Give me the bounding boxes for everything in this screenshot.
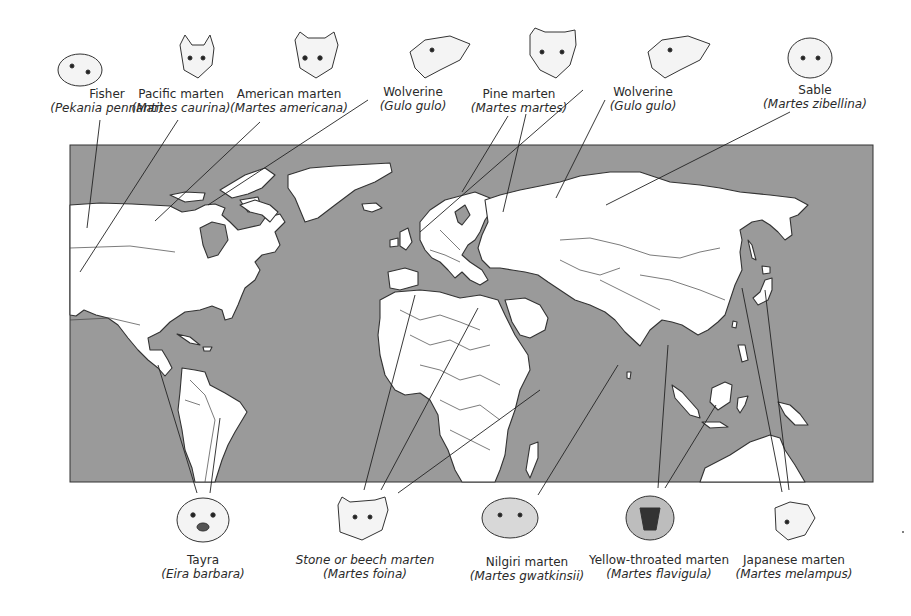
scientific-name: (Martes gwatkinsii) bbox=[470, 569, 584, 583]
tayra-head-icon bbox=[177, 498, 229, 542]
scientific-name: (Martes martes) bbox=[471, 101, 567, 115]
scientific-name: (Gulo gulo) bbox=[380, 99, 447, 113]
scientific-name: (Gulo gulo) bbox=[610, 99, 677, 113]
scientific-name: (Martes flavigula) bbox=[589, 567, 729, 581]
label-pacific-marten: Pacific marten (Martes caurina) bbox=[132, 87, 231, 115]
label-nilgiri-marten: Nilgiri marten (Martes gwatkinsii) bbox=[470, 555, 584, 583]
yellow-throated-marten-head-icon bbox=[626, 496, 674, 540]
common-name: Yellow-throated marten bbox=[589, 553, 729, 567]
label-japanese-marten: Japanese marten (Martes melampus) bbox=[735, 553, 852, 581]
iberia bbox=[388, 268, 418, 290]
pacific-marten-head-icon bbox=[180, 35, 214, 78]
sable-head-icon bbox=[788, 38, 832, 78]
common-name: Japanese marten bbox=[735, 553, 852, 567]
hispaniola bbox=[203, 347, 212, 351]
label-sable: Sable (Martes zibellina) bbox=[763, 83, 867, 111]
stray-dot bbox=[902, 531, 904, 533]
label-american-marten: American marten (Martes americana) bbox=[230, 87, 348, 115]
common-name: Tayra bbox=[161, 553, 245, 567]
taiwan bbox=[732, 321, 737, 328]
wolverine-head-icon-2 bbox=[648, 36, 710, 78]
scientific-name: (Martes zibellina) bbox=[763, 97, 867, 111]
label-yellow-throated-marten: Yellow-throated marten (Martes flavigula… bbox=[589, 553, 729, 581]
label-stone-marten: Stone or beech marten (Martes foina) bbox=[296, 553, 435, 581]
fisher-head-icon bbox=[58, 54, 102, 86]
label-tayra: Tayra (Eira barbara) bbox=[161, 553, 245, 581]
common-name: Nilgiri marten bbox=[470, 555, 584, 569]
common-name: American marten bbox=[230, 87, 348, 101]
common-name: Sable bbox=[763, 83, 867, 97]
scientific-name: (Martes americana) bbox=[230, 101, 348, 115]
common-name: Pine marten bbox=[471, 87, 567, 101]
pine-marten-head-icon bbox=[530, 28, 576, 78]
label-wolverine-na: Wolverine (Gulo gulo) bbox=[380, 85, 447, 113]
scientific-name: (Martes foina) bbox=[296, 567, 435, 581]
ireland bbox=[390, 238, 398, 247]
scientific-name: (Martes melampus) bbox=[735, 567, 852, 581]
common-name: Pacific marten bbox=[132, 87, 231, 101]
common-name: Stone or beech marten bbox=[296, 553, 435, 567]
scientific-name: (Martes caurina) bbox=[132, 101, 231, 115]
common-name: Wolverine bbox=[610, 85, 677, 99]
scientific-name: (Eira barbara) bbox=[161, 567, 245, 581]
label-wolverine-eurasia: Wolverine (Gulo gulo) bbox=[610, 85, 677, 113]
japanese-marten-head-icon bbox=[775, 502, 815, 540]
label-pine-marten: Pine marten (Martes martes) bbox=[471, 87, 567, 115]
sri-lanka bbox=[627, 372, 631, 379]
american-marten-head-icon bbox=[295, 32, 338, 78]
nilgiri-marten-head-icon bbox=[482, 498, 538, 538]
hokkaido bbox=[762, 266, 770, 274]
common-name: Wolverine bbox=[380, 85, 447, 99]
wolverine-head-icon bbox=[410, 36, 470, 78]
stone-marten-head-icon bbox=[338, 497, 388, 540]
